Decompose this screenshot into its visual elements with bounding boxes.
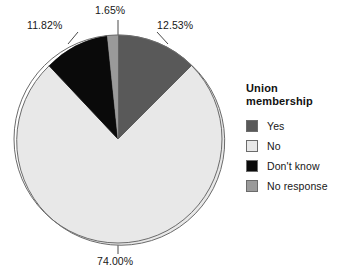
- legend-label-yes: Yes: [267, 120, 284, 132]
- data-label-yes: 12.53%: [157, 19, 193, 31]
- pie-svg: [0, 0, 240, 275]
- legend-label-no: No: [267, 140, 281, 152]
- data-label-dont-know: 11.82%: [27, 19, 62, 31]
- leader-line-dont-know: [68, 32, 78, 44]
- legend-label-no-response: No response: [267, 180, 328, 192]
- legend-swatch-no: [246, 140, 258, 152]
- legend-swatch-yes: [246, 120, 258, 132]
- legend-item-dont-know[interactable]: Don't know: [246, 156, 347, 176]
- legend: Union membership Yes No Don't know No re…: [246, 82, 347, 196]
- legend-item-yes[interactable]: Yes: [246, 116, 347, 136]
- leader-line-yes: [157, 32, 168, 44]
- data-label-no: 74.00%: [97, 255, 133, 267]
- legend-swatch-dont-know: [246, 160, 258, 172]
- legend-item-no-response[interactable]: No response: [246, 176, 347, 196]
- pie-chart-figure: 1.65% 12.53% 11.82% 74.00% Union members…: [0, 0, 347, 275]
- legend-title: Union membership: [246, 82, 347, 107]
- legend-swatch-no-response: [246, 180, 258, 192]
- legend-label-dont-know: Don't know: [267, 160, 320, 172]
- legend-item-no[interactable]: No: [246, 136, 347, 156]
- data-label-no-response: 1.65%: [95, 4, 125, 16]
- pie-plot-area: 1.65% 12.53% 11.82% 74.00%: [0, 0, 240, 275]
